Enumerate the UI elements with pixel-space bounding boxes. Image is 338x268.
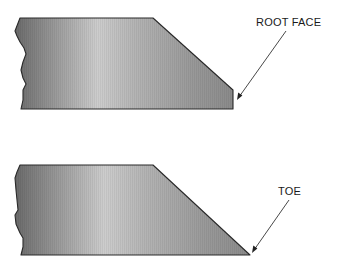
plate-texture xyxy=(15,165,250,255)
toe-label: TOE xyxy=(278,185,301,197)
plate-with-toe xyxy=(15,165,250,255)
toe-callout: TOE xyxy=(252,185,301,253)
plate-with-root-face xyxy=(15,18,233,109)
root-face-callout: ROOT FACE xyxy=(237,16,321,100)
toe-arrow-line xyxy=(254,200,289,250)
weld-bevel-diagram: ROOT FACE TOE xyxy=(0,0,338,268)
plate-texture xyxy=(15,18,233,109)
root-face-arrow-line xyxy=(239,31,286,97)
root-face-label: ROOT FACE xyxy=(256,16,321,28)
